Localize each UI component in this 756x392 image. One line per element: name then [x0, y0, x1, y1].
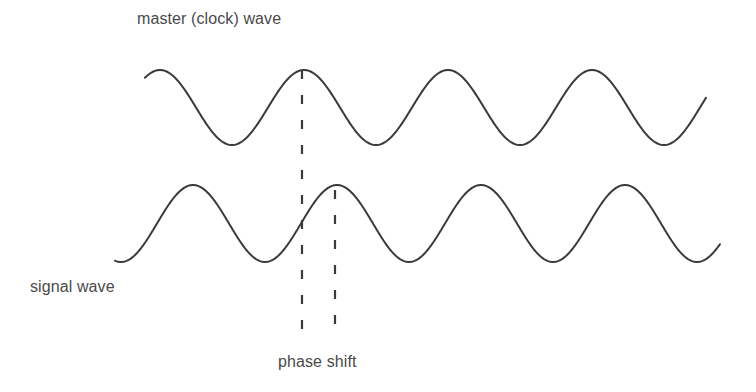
signal-wave-label: signal wave — [30, 278, 115, 296]
master-wave-label: master (clock) wave — [137, 10, 281, 28]
phase-shift-diagram: master (clock) wave signal wave phase sh… — [0, 0, 756, 392]
master-clock-wave — [145, 70, 706, 145]
signal-wave — [115, 185, 720, 262]
phase-shift-label: phase shift — [278, 353, 356, 371]
waves-canvas — [0, 0, 756, 392]
